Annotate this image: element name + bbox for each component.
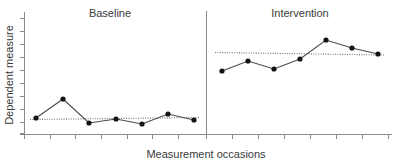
data-point (86, 120, 91, 125)
data-point (271, 66, 276, 71)
intervention-phase-label: Intervention (271, 7, 328, 19)
data-point (349, 45, 354, 50)
x-axis-group (20, 135, 392, 140)
data-point (113, 116, 118, 121)
data-point (375, 51, 380, 56)
data-point (191, 117, 196, 122)
y-axis-title: Dependent measure (3, 25, 15, 125)
x-axis-title: Measurement occasions (146, 148, 266, 160)
data-point (297, 56, 302, 61)
y-axis-ticks (20, 19, 25, 134)
y-axis-group (20, 12, 25, 137)
data-point (139, 121, 144, 126)
x-axis-ticks (25, 135, 389, 140)
baseline-phase-series (30, 96, 200, 126)
intervention-phase-series (215, 37, 385, 73)
intervention-trend-line (215, 53, 385, 56)
baseline-phase-label: Baseline (89, 7, 131, 19)
single-case-design-line-chart: Baseline Intervention Measurement occasi… (0, 0, 396, 165)
data-point (323, 37, 328, 42)
data-point (219, 68, 224, 73)
data-point (33, 115, 38, 120)
data-point (60, 96, 65, 101)
chart-figure: Baseline Intervention Measurement occasi… (0, 0, 396, 165)
data-point (165, 111, 170, 116)
intervention-data-line (222, 40, 378, 71)
data-point (245, 58, 250, 63)
